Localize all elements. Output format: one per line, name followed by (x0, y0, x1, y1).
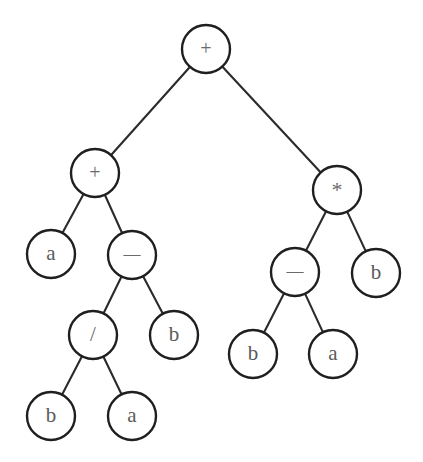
tree-node-n0[interactable]: + (182, 25, 230, 73)
node-label-n11: b (46, 403, 57, 427)
tree-node-layer: ++*a——b/bbaba (27, 25, 400, 440)
node-label-n7: / (90, 322, 96, 346)
node-label-n4: — (123, 244, 142, 263)
expression-tree-canvas: ++*a——b/bbaba (0, 0, 423, 462)
expression-tree-figure: ++*a——b/bbaba (0, 0, 423, 462)
tree-edge-n7-n11 (61, 355, 82, 396)
tree-node-n4[interactable]: — (108, 231, 156, 279)
node-label-n2: * (332, 177, 343, 202)
tree-edge-n2-n5 (305, 210, 326, 252)
tree-node-n2[interactable]: * (313, 166, 361, 214)
tree-edge-n1-n3 (62, 193, 85, 234)
tree-node-n8[interactable]: b (150, 311, 198, 359)
tree-node-n5[interactable]: — (271, 248, 319, 296)
node-label-n3: a (46, 241, 56, 265)
tree-edge-n4-n7 (103, 275, 122, 315)
node-label-n1: + (89, 161, 100, 183)
tree-edge-n2-n6 (347, 210, 367, 252)
node-label-n10: a (328, 341, 338, 365)
tree-edge-n5-n10 (304, 292, 323, 333)
tree-node-n6[interactable]: b (352, 249, 400, 297)
tree-edge-n1-n4 (104, 194, 123, 235)
node-label-n0: + (200, 37, 211, 59)
node-label-n5: — (286, 261, 305, 280)
node-label-n12: a (127, 403, 137, 427)
tree-node-n12[interactable]: a (108, 392, 156, 440)
node-label-n8: b (169, 322, 180, 346)
node-label-n9: b (248, 341, 259, 365)
tree-node-n9[interactable]: b (229, 330, 277, 378)
tree-node-n7[interactable]: / (69, 311, 117, 359)
tree-node-n11[interactable]: b (27, 392, 75, 440)
tree-node-n10[interactable]: a (309, 330, 357, 378)
tree-edge-n0-n1 (110, 66, 191, 156)
tree-edge-n4-n8 (142, 275, 163, 315)
tree-edge-n0-n2 (221, 65, 321, 173)
tree-edge-n7-n12 (103, 355, 122, 395)
node-label-n6: b (371, 260, 382, 284)
tree-edge-n5-n9 (263, 292, 284, 334)
tree-node-n1[interactable]: + (71, 149, 119, 197)
tree-node-n3[interactable]: a (27, 230, 75, 278)
